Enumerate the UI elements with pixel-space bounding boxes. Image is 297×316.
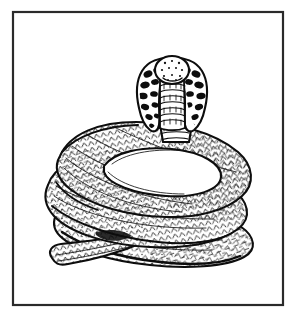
artboard: Coiled Cobra cobra black-and-white pen-a… — [0, 0, 297, 316]
throat-bands — [160, 78, 185, 131]
cobra-illustration — [0, 0, 297, 316]
head — [155, 56, 189, 84]
